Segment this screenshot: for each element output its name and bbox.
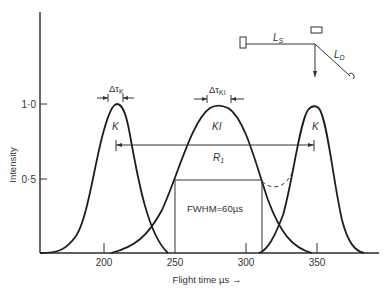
ld-label: LD xyxy=(334,49,345,61)
y-axis-label: Intensity xyxy=(7,147,18,183)
delta-tau-ki-marker: ΔτKI xyxy=(194,84,244,103)
fwhm-label: FWHM=60µs xyxy=(187,203,243,214)
y-tick-label-1: 1·0 xyxy=(22,99,37,110)
inset-geometry-diagram: LS LD xyxy=(240,27,354,79)
svg-text:ΔτK: ΔτK xyxy=(109,83,124,95)
chopper-box-icon xyxy=(311,27,322,33)
down-arrow-icon xyxy=(313,71,317,78)
ls-label: LS xyxy=(273,32,284,44)
x-tick-label-300: 300 xyxy=(238,257,255,268)
x-tick-label-250: 250 xyxy=(167,257,184,268)
delta-tau-k-marker: ΔτK xyxy=(97,83,134,102)
peak-label-k-2: K xyxy=(312,121,320,132)
source-box-icon xyxy=(240,37,246,48)
peak-label-ki: KI xyxy=(212,121,222,132)
peak-label-k-1: K xyxy=(112,121,120,132)
sum-dashed-curve xyxy=(262,171,293,187)
y-tick-label-05: 0·5 xyxy=(22,174,37,185)
fwhm-box xyxy=(175,180,262,253)
svg-text:ΔτKI: ΔτKI xyxy=(209,84,226,96)
x-axis-label: Flight time µs → xyxy=(173,274,242,285)
r1-label: R1 xyxy=(213,152,224,164)
x-tick-label-350: 350 xyxy=(309,257,326,268)
flight-time-chart: 1·0 0·5 Intensity 200 250 300 350 Flight… xyxy=(0,0,392,290)
x-tick-label-200: 200 xyxy=(96,257,113,268)
